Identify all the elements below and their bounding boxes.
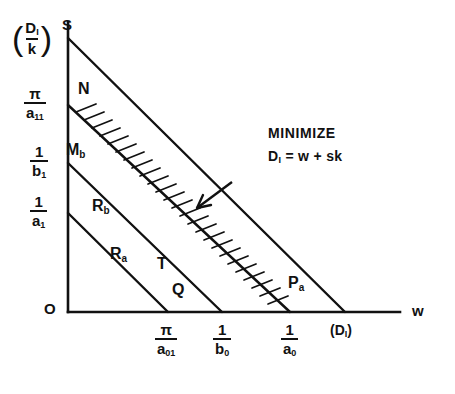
point-label-Ra: Ra [110, 245, 127, 264]
origin-label: O [44, 300, 56, 317]
point-label-Mb: Mb [66, 141, 85, 160]
y-tick-pi-over-a11: π a11 [24, 86, 46, 122]
x-tick-one-over-b0: 1 b0 [213, 322, 231, 358]
x-tick-pi-over-a01: π a01 [155, 322, 177, 358]
x-tick-denominator: a0 [281, 338, 298, 358]
y-tick-one-over-a1: 1 a1 [30, 194, 47, 230]
point-label-Rb: Rb [92, 197, 110, 216]
y-tick-D1-over-k: ( DI k ) [12, 20, 52, 56]
x-axis-label: w [412, 302, 424, 319]
x-tick-numerator: π [158, 322, 173, 338]
x-tick-denominator: a01 [155, 338, 177, 358]
point-label-Q: Q [172, 281, 184, 299]
x-tick-numerator: 1 [284, 322, 296, 338]
y-tick-denominator: a11 [24, 102, 46, 122]
left-paren: ( [12, 23, 23, 54]
constraint-line-objective [68, 38, 345, 312]
point-label-Pa: Pa [288, 274, 304, 293]
figure-canvas: S w O ( DI k ) π a11 1 b1 1 a1 π a01 1 b… [0, 0, 455, 394]
y-tick-denominator: b1 [30, 160, 48, 180]
y-tick-denominator: k [26, 38, 38, 56]
y-tick-numerator: 1 [33, 194, 45, 210]
y-tick-numerator: DI [23, 20, 40, 38]
y-tick-numerator: π [27, 86, 42, 102]
x-tick-denominator: b0 [213, 338, 231, 358]
annotation-minimize: MINIMIZE [268, 125, 336, 141]
x-tick-one-over-a0: 1 a0 [281, 322, 298, 358]
y-tick-one-over-b1: 1 b1 [30, 144, 48, 180]
point-label-T: T [157, 255, 167, 273]
x-tick-D1-end: (DI) [330, 322, 352, 339]
x-tick-numerator: 1 [216, 322, 228, 338]
y-tick-numerator: 1 [33, 144, 45, 160]
right-paren: ) [41, 23, 52, 54]
y-axis-label: S [62, 16, 72, 33]
point-label-N: N [78, 80, 90, 98]
y-tick-denominator: a1 [30, 210, 47, 230]
annotation-objective-equation: DI = w + sk [268, 148, 342, 165]
